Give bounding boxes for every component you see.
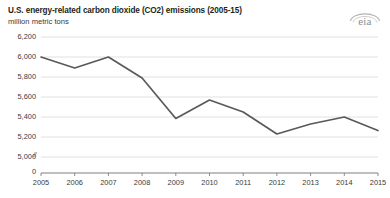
chart-container: U.S. energy-related carbon dioxide (CO2)… [0, 0, 390, 198]
gridlines [41, 37, 378, 157]
chart-plot-area [0, 0, 390, 198]
data-series-line [41, 57, 378, 134]
